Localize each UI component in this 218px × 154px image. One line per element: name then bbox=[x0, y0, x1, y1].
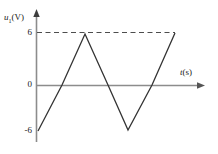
y-tick-label-neg6: -6 bbox=[14, 126, 32, 135]
y-axis-label-unit: (V) bbox=[12, 12, 25, 22]
x-axis-arrow-icon bbox=[197, 82, 205, 88]
x-axis-label-unit: (s) bbox=[183, 67, 193, 77]
waveform-figure: u1(V) t(s) 6 0 -6 bbox=[0, 0, 218, 154]
x-axis-label: t(s) bbox=[180, 68, 192, 77]
y-axis bbox=[33, 9, 39, 142]
plot-canvas bbox=[0, 0, 218, 154]
waveform-curve bbox=[38, 33, 175, 131]
y-tick-label-0: 0 bbox=[18, 80, 32, 89]
y-axis-arrow-icon bbox=[33, 9, 39, 17]
y-tick-label-6: 6 bbox=[18, 28, 32, 37]
y-axis-label: u1(V) bbox=[4, 13, 24, 24]
